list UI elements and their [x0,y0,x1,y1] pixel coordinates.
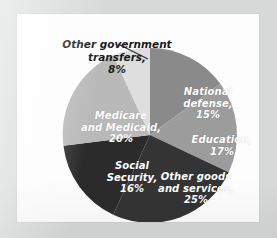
screenshot-root: National defense, 15% Education, 17% Oth… [0,0,277,238]
slice-label-other-government-transfers: Other government transfers, 8% [33,38,201,76]
pie-chart: National defense, 15% Education, 17% Oth… [17,14,259,222]
chart-panel: National defense, 15% Education, 17% Oth… [17,14,259,222]
